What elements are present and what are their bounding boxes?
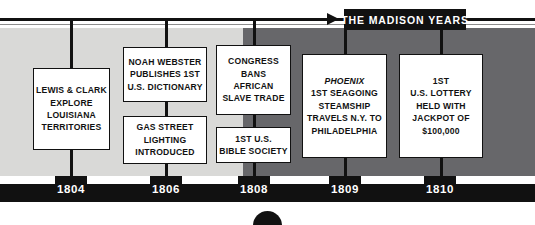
stem-1809-bottom [344, 158, 347, 178]
event-line: 1ST [433, 75, 449, 87]
timeline-infographic: THE MADISON YEARS LEWIS & CLARK EXPLORE … [0, 0, 535, 225]
event-box-congress-slave-trade[interactable]: CONGRESS BANS AFRICAN SLAVE TRADE [216, 45, 291, 115]
event-box-gas-street-lighting[interactable]: GAS STREET LIGHTING INTRODUCED [123, 116, 207, 164]
event-box-bible-society[interactable]: 1ST U.S. BIBLE SOCIETY [216, 127, 291, 163]
event-line: LEWIS & CLARK [36, 84, 107, 96]
event-line: U.S. DICTIONARY [127, 81, 202, 93]
event-line: BANS [241, 68, 266, 80]
year-chip-1808[interactable]: 1808 [238, 176, 270, 202]
event-line: 1ST U.S. [235, 133, 271, 145]
year-label: 1809 [331, 183, 359, 195]
band-notch [182, 176, 238, 184]
event-line: EXPLORE [50, 97, 92, 109]
band-notch [270, 176, 329, 184]
event-line: PHILADELPHIA [312, 125, 378, 137]
era-banner-label: THE MADISON YEARS [341, 14, 469, 26]
event-line: GAS STREET [137, 121, 194, 133]
event-line: $100,000 [422, 125, 459, 137]
stem-1810-top [440, 30, 443, 54]
event-line: STEAMSHIP [319, 100, 371, 112]
event-box-lewis-clark[interactable]: LEWIS & CLARK EXPLORE LOUISIANA TERRITOR… [33, 68, 110, 150]
band-notch [361, 176, 424, 184]
stem-1808-middle [253, 114, 256, 128]
event-box-us-lottery[interactable]: 1ST U.S. LOTTERY HELD WITH JACKPOT OF $1… [399, 54, 483, 158]
stem-1808-top [253, 21, 256, 46]
year-label: 1806 [152, 183, 180, 195]
event-line: 1ST SEAGOING [311, 87, 378, 99]
band-notch [0, 176, 55, 184]
event-line: BIBLE SOCIETY [219, 145, 288, 157]
year-label: 1804 [57, 183, 85, 195]
event-line: TRAVELS N.Y. TO [307, 112, 382, 124]
event-line: CONGRESS [228, 55, 279, 67]
year-chip-1809[interactable]: 1809 [329, 176, 361, 202]
event-line: HELD WITH [416, 100, 466, 112]
stem-1810-bottom [440, 158, 443, 178]
page-marker-dot [253, 211, 282, 225]
year-label: 1810 [426, 183, 454, 195]
event-line: LIGHTING [144, 134, 187, 146]
event-line: INTRODUCED [135, 146, 194, 158]
stem-lewis-clark-top [70, 21, 73, 69]
year-chip-1806[interactable]: 1806 [150, 176, 182, 202]
year-label: 1808 [240, 183, 268, 195]
arrow-right-icon [327, 13, 339, 25]
era-banner: THE MADISON YEARS [344, 9, 466, 30]
band-notch [456, 176, 535, 184]
event-line: U.S. LOTTERY [410, 87, 471, 99]
year-chip-1804[interactable]: 1804 [55, 176, 87, 202]
stem-lewis-clark-bottom [70, 150, 73, 178]
event-line: NOAH WEBSTER [128, 56, 201, 68]
event-line: PUBLISHES 1ST [130, 68, 200, 80]
event-line: JACKPOT OF [412, 112, 469, 124]
event-line: SLAVE TRADE [222, 92, 284, 104]
event-line: LOUISIANA [47, 109, 96, 121]
stem-1809-top [344, 30, 347, 54]
event-box-phoenix-steamship[interactable]: PHOENIX 1ST SEAGOING STEAMSHIP TRAVELS N… [302, 54, 387, 158]
event-box-noah-webster[interactable]: NOAH WEBSTER PUBLISHES 1ST U.S. DICTIONA… [123, 47, 207, 102]
event-line: PHOENIX [324, 75, 364, 87]
stem-1806-middle [165, 101, 168, 117]
stem-1806-top [165, 21, 168, 48]
event-line: TERRITORIES [42, 121, 102, 133]
band-notch [87, 176, 150, 184]
event-line: AFRICAN [233, 80, 273, 92]
year-chip-1810[interactable]: 1810 [424, 176, 456, 202]
